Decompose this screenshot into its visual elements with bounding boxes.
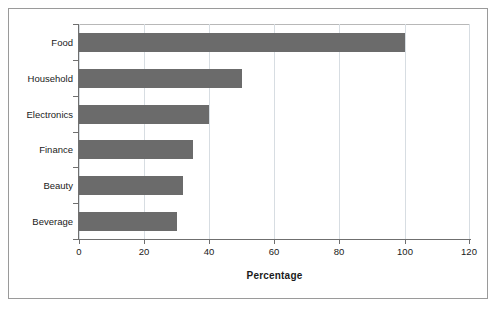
x-axis-tick-label-120: 120 bbox=[449, 246, 489, 258]
x-axis-tick-label-100: 100 bbox=[385, 246, 425, 258]
y-label-beverage-wrap: Beverage bbox=[0, 216, 73, 227]
y-axis-label-finance: Finance bbox=[3, 144, 73, 155]
gridline-100 bbox=[405, 24, 406, 239]
x-axis-title: Percentage bbox=[79, 270, 470, 281]
x-axis-tick-label-80: 80 bbox=[319, 246, 359, 258]
gridline-80 bbox=[339, 24, 340, 239]
bar-household bbox=[79, 69, 242, 88]
y-axis-label-household: Household bbox=[3, 73, 73, 84]
x-tick-120 bbox=[469, 239, 470, 244]
gridline-0 bbox=[79, 24, 80, 239]
x-tick-20 bbox=[144, 239, 145, 244]
y-label-food-wrap: Food bbox=[0, 37, 73, 48]
y-label-electronics-wrap: Electronics bbox=[0, 109, 73, 120]
y-tick-4 bbox=[73, 167, 79, 168]
x-axis-tick-label-40: 40 bbox=[189, 246, 229, 258]
y-tick-1 bbox=[73, 60, 79, 61]
gridline-60 bbox=[274, 24, 275, 239]
gridline-20 bbox=[144, 24, 145, 239]
gridline-120 bbox=[469, 24, 470, 239]
chart-figure: Food Household Electronics Finance Beaut… bbox=[0, 0, 499, 310]
y-axis-label-beauty: Beauty bbox=[3, 180, 73, 191]
x-tick-0 bbox=[79, 239, 80, 244]
x-tick-100 bbox=[405, 239, 406, 244]
y-label-household-wrap: Household bbox=[0, 73, 73, 84]
x-tick-60 bbox=[274, 239, 275, 244]
y-tick-5 bbox=[73, 203, 79, 204]
y-axis-label-electronics: Electronics bbox=[3, 109, 73, 120]
y-axis-label-food: Food bbox=[3, 37, 73, 48]
x-axis-tick-label-20: 20 bbox=[124, 246, 164, 258]
bar-food bbox=[79, 33, 405, 52]
y-axis-label-beverage: Beverage bbox=[3, 216, 73, 227]
bar-beauty bbox=[79, 176, 183, 195]
bar-finance bbox=[79, 140, 193, 159]
plot-area bbox=[79, 24, 470, 239]
x-axis-tick-label-0: 0 bbox=[59, 246, 99, 258]
y-tick-2 bbox=[73, 96, 79, 97]
x-axis-tick-label-60: 60 bbox=[254, 246, 294, 258]
y-tick-3 bbox=[73, 132, 79, 133]
x-tick-80 bbox=[339, 239, 340, 244]
gridline-40 bbox=[209, 24, 210, 239]
y-tick-0 bbox=[73, 24, 79, 25]
bar-electronics bbox=[79, 105, 209, 124]
y-label-finance-wrap: Finance bbox=[0, 144, 73, 155]
bar-beverage bbox=[79, 212, 177, 231]
y-label-beauty-wrap: Beauty bbox=[0, 180, 73, 191]
x-tick-40 bbox=[209, 239, 210, 244]
